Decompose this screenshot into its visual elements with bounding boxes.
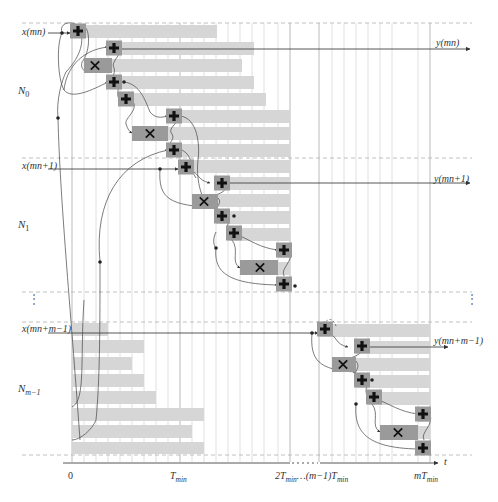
plus-icon xyxy=(70,24,86,39)
pipeline-schedule-diagram xyxy=(0,0,498,502)
axis-variable-t: t xyxy=(444,456,447,467)
axis-tick-0: 0 xyxy=(68,470,73,481)
plus-icon xyxy=(106,41,122,56)
axis-tick-m1tmin-sub: min xyxy=(337,475,348,484)
group-n0-bars xyxy=(72,25,290,157)
axis-tick-2tmin: 2Tmin…(m−1)Tmin xyxy=(275,470,348,484)
plus-icon xyxy=(317,322,333,337)
axis-tick-mtmin-sub: min xyxy=(427,475,438,484)
output-label-nm1: y(mn+m−1) xyxy=(434,335,483,346)
axis-tick-mtmin-main: mT xyxy=(414,470,427,481)
output-label-n1: y(mn+1) xyxy=(434,173,469,184)
axis-tick-mtmin: mTmin xyxy=(414,470,438,484)
input-label-n0: x(mn) xyxy=(22,26,45,37)
plus-icon xyxy=(166,109,182,124)
plus-icon xyxy=(354,373,370,388)
plus-icon xyxy=(106,75,122,90)
group-nm1-bars xyxy=(72,323,430,454)
plus-icon xyxy=(214,209,230,224)
plus-icon xyxy=(214,176,230,191)
plus-icon xyxy=(178,160,194,175)
axis-tick-m1tmin-main: …(m−1)T xyxy=(297,470,337,481)
plus-icon xyxy=(415,441,431,456)
output-label-n0: y(mn) xyxy=(436,37,459,48)
group-label-n1-sub: 1 xyxy=(25,224,29,233)
axis-tick-2tmin-main: 2T xyxy=(275,470,286,481)
ellipsis-left: ⋮ xyxy=(28,294,40,304)
group-label-n0-sub: 0 xyxy=(25,90,29,99)
group-label-n0: N0 xyxy=(18,84,29,99)
plus-icon xyxy=(276,277,292,292)
input-label-nm1: x(mn+m−1) xyxy=(22,323,71,334)
ellipsis-right: ⋮ xyxy=(466,294,478,304)
group-label-nm1-sub: m−1 xyxy=(25,388,40,397)
plus-icon xyxy=(354,339,370,354)
plus-icon xyxy=(276,243,292,258)
plus-icon xyxy=(366,390,382,405)
input-label-n1: x(mn+1) xyxy=(22,160,57,171)
axis-tick-2tmin-sub: min xyxy=(286,475,297,484)
plus-icon xyxy=(226,226,242,241)
axis-tick-tmin-sub: min xyxy=(176,475,187,484)
plus-icon xyxy=(118,92,134,107)
plus-icon xyxy=(166,143,182,158)
group-label-nm1: Nm−1 xyxy=(18,382,41,397)
axis-tick-tmin: Tmin xyxy=(170,470,187,484)
group-label-n1: N1 xyxy=(18,218,29,233)
plus-icon xyxy=(415,407,431,422)
